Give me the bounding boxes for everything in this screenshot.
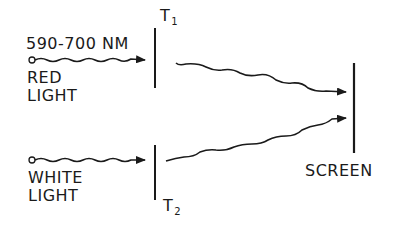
screen-label: SCREEN (305, 163, 373, 179)
t1-label: T1 (160, 8, 177, 26)
red-label: RED (27, 70, 62, 86)
white-light-wave-arrow (35, 159, 145, 162)
upper-transmitted-wave-arrow (176, 63, 346, 92)
t1-main: T (160, 6, 170, 25)
t1-subscript: 1 (171, 16, 178, 27)
white-label: WHITE (28, 170, 83, 186)
t2-subscript: 2 (174, 206, 181, 217)
lower-transmitted-wave-arrow (166, 118, 346, 161)
wavelength-label: 590-700 NM (26, 36, 129, 52)
t2-main: T (163, 196, 173, 215)
t2-label: T2 (163, 198, 180, 216)
red-light-label: LIGHT (27, 88, 77, 104)
light-interference-diagram: 590-700 NM RED LIGHT WHITE LIGHT T1 T2 S… (0, 0, 397, 225)
red-source-icon (29, 57, 35, 63)
white-light-label: LIGHT (28, 188, 78, 204)
red-light-wave-arrow (35, 59, 145, 62)
white-source-icon (29, 157, 35, 163)
